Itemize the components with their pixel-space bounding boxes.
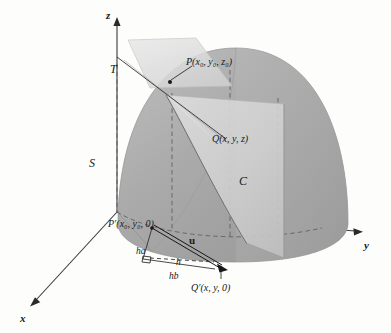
surface-label-S: S [89,157,95,169]
tangent-plane-label-T: T [110,63,117,75]
segment-label-h: h [176,258,181,268]
segment-label-ha: ha [136,247,146,257]
segment-label-hb: hb [169,272,179,282]
point-label-P-prime: P′(x₀, y₀, 0) [108,219,154,229]
figure-canvas: z y x S T C P(x₀, y₀, z₀) Q(x, y, z) P′(… [0,0,391,333]
point-label-Q: Q(x, y, z) [212,134,248,144]
vector-label-u: u [189,235,195,246]
x-axis-label: x [20,313,26,324]
z-axis-label: z [106,10,110,21]
point-label-Q-prime: Q′(x, y, 0) [191,283,230,293]
point-label-P: P(x₀, y₀, z₀) [186,57,232,67]
z-axis-arrowhead [113,17,120,26]
y-axis-label: y [364,240,369,251]
x-axis-arrowhead [30,297,40,306]
point-P-dot [168,80,172,84]
curve-label-C: C [239,175,247,187]
x-axis-line [36,212,117,300]
y-axis-arrowhead [353,228,363,235]
